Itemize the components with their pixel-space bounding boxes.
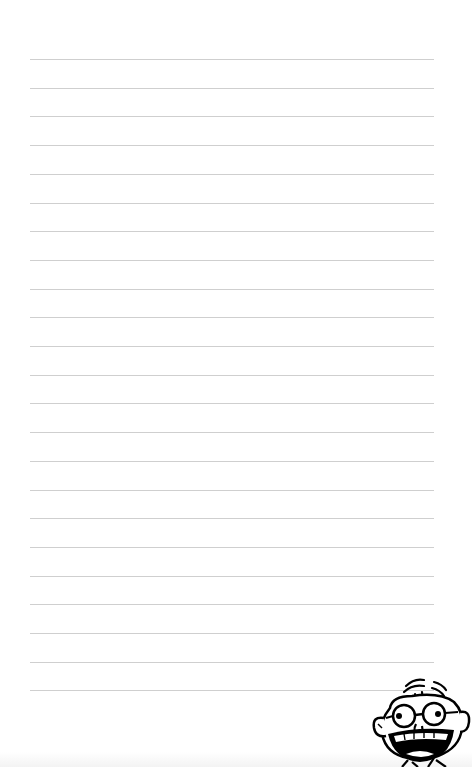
ruled-line [30, 576, 434, 577]
ruled-line [30, 317, 434, 318]
ruled-line [30, 547, 434, 548]
ruled-line [30, 88, 434, 89]
cartoon-kid-face-icon [368, 668, 472, 767]
ruled-line [30, 375, 434, 376]
ruled-line [30, 432, 434, 433]
notebook-page [0, 0, 472, 767]
ruled-line [30, 461, 434, 462]
ruled-line [30, 518, 434, 519]
ruled-line [30, 203, 434, 204]
ruled-line [30, 145, 434, 146]
ruled-line [30, 633, 434, 634]
ruled-line [30, 662, 434, 663]
ruled-line [30, 116, 434, 117]
ruled-line [30, 260, 434, 261]
ruled-line [30, 403, 434, 404]
ruled-line [30, 59, 434, 60]
ruled-line [30, 289, 434, 290]
ruled-line [30, 231, 434, 232]
ruled-line [30, 604, 434, 605]
ruled-line [30, 346, 434, 347]
ruled-line [30, 174, 434, 175]
ruled-line [30, 490, 434, 491]
